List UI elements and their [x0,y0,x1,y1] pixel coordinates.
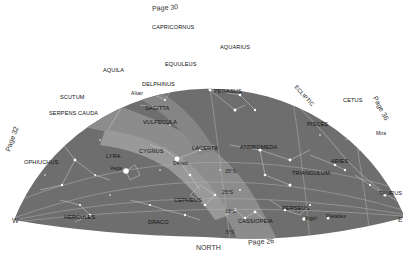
constellation-label: SAGITTA [145,105,169,111]
constellation-label: PERSEUS [282,205,309,211]
constellation-label: TRIANGULUM [292,170,330,176]
constellation-label: CAPRICORNUS [152,24,194,30]
latitude-mark: 35°S [225,168,236,174]
star-label-deneb: Deneb [173,160,188,166]
star-label-pleiades: Pleiades [326,213,346,219]
sky-map-graphic [0,0,413,268]
latitude-mark: 25°S [222,189,233,195]
constellation-label: CYGNUS [139,148,164,154]
constellation-label: DELPHINUS [142,81,175,87]
constellation-label: LYRA [106,153,121,159]
constellation-label: HERCULES [64,214,95,220]
star-label-vega: Vega [110,165,122,171]
constellation-label: PEGASUS [214,88,242,94]
constellation-label: ANDROMEDA [240,144,277,150]
constellation-label: CETUS [343,97,362,103]
constellation-label: PISCES [307,121,328,127]
constellation-label: TAURUS [379,190,402,196]
star-label-altair: Altair [131,90,143,96]
star-chart: CAPRICORNUS AQUARIUS EQUULEUS AQUILA DEL… [0,0,413,268]
latitude-mark: 15°S [225,208,236,214]
constellation-label: AQUILA [103,67,124,73]
constellation-label: CASSIOPEIA [238,218,273,224]
constellation-label: OPHIUCHUS [24,159,58,165]
constellation-label: DRACO [148,219,169,225]
direction-west: W [12,217,19,224]
constellation-label: CEPHEUS [174,197,202,203]
direction-north: NORTH [196,244,221,251]
constellation-label: LACERTA [192,145,218,151]
star-label-algol: Algol [305,215,317,221]
constellation-label: EQUULEUS [165,61,197,67]
latitude-mark: 5°S [226,229,234,235]
constellation-label: SERPENS CAUDA [49,110,98,116]
direction-east: E [398,216,403,223]
constellation-label: ARIES [331,158,348,164]
constellation-label: AQUARIUS [220,44,250,50]
constellation-label: VULPECULA [143,119,177,125]
star-label-mira: Mira [376,130,386,136]
constellation-label: SCUTUM [60,94,85,100]
